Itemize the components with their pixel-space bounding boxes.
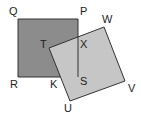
label-q: Q [9,5,18,17]
label-v: V [128,82,136,94]
geometry-diagram: Q P W T X R K S V U [0,0,141,116]
label-w: W [102,13,113,25]
label-u: U [64,102,72,114]
label-x: X [80,38,88,50]
label-p: P [80,5,87,17]
label-t: T [40,38,47,50]
label-k: K [50,78,58,90]
label-r: R [10,78,18,90]
label-s: S [80,75,87,87]
